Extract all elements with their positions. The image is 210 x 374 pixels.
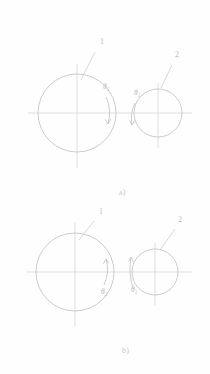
panel-a-theta2-label: θ2 [103, 82, 110, 92]
panel-a-theta1-label: θ1 [134, 88, 141, 98]
panel-a-theta1-subscript: 1 [138, 92, 141, 98]
panel-b-small-circle-number-label: 2 [178, 215, 182, 224]
panel-b-large-circle-number-label: 1 [99, 207, 103, 216]
panel-a-theta2-arc [106, 97, 110, 124]
panel-a-small-circle-leader-line [161, 65, 172, 88]
panel-b-theta1-subscript: 1 [135, 289, 138, 295]
panel-b-theta2-subscript: 2 [105, 291, 108, 297]
panel-a-group: 1 2 θ2 θ1 [28, 37, 192, 168]
panel-b-theta2-arrowhead [103, 259, 108, 264]
panel-b-theta2-label: θ2 [101, 287, 108, 297]
figure-container: 1 2 θ2 θ1 [0, 0, 210, 374]
panel-a-theta2-subscript: 2 [107, 86, 110, 92]
panel-a-large-circle-number-label: 1 [100, 37, 104, 46]
panel-a-theta1-arrowhead [130, 120, 135, 125]
panel-a-theta2-arrowhead [105, 119, 110, 124]
panel-b-small-circle-leader-line [160, 229, 175, 250]
figure-drawing: 1 2 θ2 θ1 [0, 0, 210, 374]
panel-b-theta1-arrowhead [128, 257, 133, 262]
panel-a-caption: a) [119, 188, 126, 197]
panel-a-small-circle-number-label: 2 [175, 50, 179, 59]
panel-b-caption: b) [122, 346, 129, 355]
panel-b-theta1-arc [130, 257, 133, 288]
panel-b-group: 1 2 θ2 θ1 [26, 207, 192, 327]
